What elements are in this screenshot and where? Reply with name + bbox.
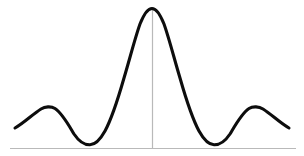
plot-area xyxy=(0,0,304,156)
figure-container xyxy=(0,0,304,156)
